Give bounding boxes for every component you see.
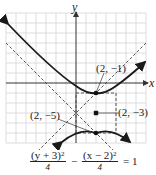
- equation-equals: = 1: [123, 156, 137, 167]
- term-2-numerator: (x − 2): [83, 149, 113, 161]
- hyperbola-equation: (y + 3)2 4 − (x − 2)2 4 = 1: [30, 149, 156, 175]
- vertex-point-lower: [94, 131, 99, 136]
- vertex-point-upper: [94, 91, 99, 96]
- term-1-numerator: (y + 3): [31, 149, 61, 161]
- equation-term-2: (x − 2)2 4: [82, 149, 118, 172]
- point-label-center: (2, −3): [118, 107, 148, 118]
- center-point: [94, 111, 98, 115]
- y-axis-label: y: [72, 1, 77, 13]
- equation-term-1: (y + 3)2 4: [30, 149, 66, 172]
- term-1-exponent: 2: [61, 150, 65, 158]
- term-2-exponent: 2: [113, 150, 117, 158]
- term-1-denominator: 4: [30, 162, 66, 172]
- hyperbola-graph: y x (2, −1) (2, −3) (2, −5): [0, 0, 156, 150]
- graph-canvas: [0, 0, 156, 150]
- point-label-vertex-upper: (2, −1): [96, 63, 126, 74]
- term-2-denominator: 4: [82, 162, 118, 172]
- point-label-vertex-lower: (2, −5): [30, 110, 60, 121]
- x-axis-label: x: [149, 77, 154, 89]
- equation-minus: −: [71, 156, 77, 167]
